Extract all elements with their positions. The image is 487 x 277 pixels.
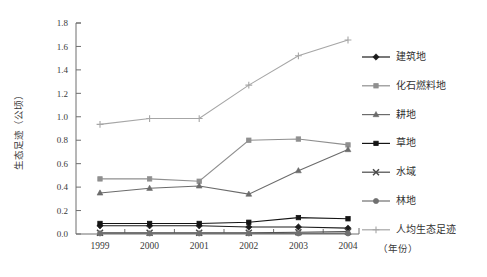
- legend-item-4[interactable]: 草地: [362, 136, 416, 148]
- legend-item-label: 林地: [396, 194, 416, 206]
- y-tick-label: 1.0: [57, 112, 69, 122]
- data-point-circle-marker: [197, 231, 202, 236]
- legend-item-label: 人均生态足迹: [396, 223, 456, 235]
- data-point-plus-marker: [245, 82, 252, 89]
- series-line: [100, 218, 348, 224]
- data-point-square-marker: [296, 137, 300, 141]
- series-line: [100, 40, 348, 124]
- x-axis-title: （年份）: [378, 243, 418, 254]
- y-tick-label: 1.4: [57, 65, 69, 75]
- legend-item-7[interactable]: 人均生态足迹: [362, 223, 456, 235]
- data-point-plus-marker: [373, 226, 380, 233]
- legend-item-2[interactable]: 化石燃料地: [362, 79, 446, 91]
- y-axis-title: 生态足迹（公顷）: [13, 90, 24, 170]
- series-1: [98, 137, 350, 184]
- data-point-square-marker: [98, 177, 102, 181]
- y-tick-label: 0.8: [57, 135, 69, 145]
- series-3: [98, 215, 350, 225]
- data-point-square-marker: [247, 138, 251, 142]
- data-point-square-marker: [147, 177, 151, 181]
- y-axis-ticks: [76, 23, 81, 234]
- series-group: [97, 37, 352, 236]
- series-line: [100, 150, 348, 195]
- x-tick-label: 2001: [190, 241, 209, 251]
- data-point-circle-marker: [97, 231, 102, 236]
- y-axis-tick-labels: 0.00.20.40.60.81.01.21.41.61.8: [57, 18, 69, 239]
- legend-item-5[interactable]: 水域: [362, 165, 416, 177]
- y-tick-label: 0.6: [57, 159, 69, 169]
- data-point-square-marker: [247, 220, 251, 224]
- legend-item-6[interactable]: 林地: [362, 194, 416, 206]
- y-tick-label: 0.0: [57, 229, 69, 239]
- data-point-plus-marker: [295, 52, 302, 59]
- legend-item-3[interactable]: 耕地: [362, 108, 416, 120]
- data-point-circle-marker: [246, 231, 251, 236]
- legend-item-label: 建筑地: [396, 50, 426, 62]
- data-point-square-marker: [374, 141, 378, 145]
- data-point-plus-marker: [146, 115, 153, 122]
- y-tick-label: 0.2: [57, 206, 68, 216]
- y-tick-label: 0.4: [57, 182, 69, 192]
- chart-container: 生态足迹（公顷） 0.00.20.40.60.81.01.21.41.61.8 …: [0, 0, 487, 277]
- x-axis-tick-labels: 199920002001200220032004: [91, 241, 358, 251]
- data-point-square-marker: [346, 217, 350, 221]
- x-tick-label: 2002: [239, 241, 258, 251]
- data-point-square-marker: [98, 221, 102, 225]
- y-tick-label: 1.8: [57, 18, 69, 28]
- legend-item-label: 水域: [396, 165, 416, 177]
- legend-item-label: 草地: [396, 136, 416, 148]
- data-point-square-marker: [197, 221, 201, 225]
- series-line: [100, 226, 348, 228]
- data-point-circle-marker: [345, 231, 350, 236]
- x-tick-label: 1999: [91, 241, 110, 251]
- data-point-plus-marker: [196, 115, 203, 122]
- x-tick-label: 2003: [289, 241, 308, 251]
- legend-item-label: 耕地: [396, 108, 416, 120]
- series-2: [97, 147, 351, 197]
- data-point-diamond-marker: [373, 54, 379, 60]
- data-point-plus-marker: [97, 121, 104, 128]
- legend-item-label: 化石燃料地: [396, 79, 446, 91]
- data-point-circle-marker: [296, 231, 301, 236]
- ecological-footprint-line-chart: 生态足迹（公顷） 0.00.20.40.60.81.01.21.41.61.8 …: [0, 0, 487, 277]
- data-point-square-marker: [147, 221, 151, 225]
- series-6: [97, 37, 352, 128]
- x-tick-label: 2004: [339, 241, 358, 251]
- y-tick-label: 1.6: [57, 42, 69, 52]
- chart-legend: 建筑地化石燃料地耕地草地水域林地人均生态足迹: [362, 50, 456, 235]
- y-tick-label: 1.2: [57, 89, 68, 99]
- data-point-circle-marker: [373, 198, 378, 203]
- legend-item-1[interactable]: 建筑地: [362, 50, 426, 62]
- data-point-circle-marker: [147, 231, 152, 236]
- data-point-square-marker: [374, 84, 378, 88]
- x-tick-label: 2000: [140, 241, 159, 251]
- series-line: [100, 139, 348, 181]
- data-point-plus-marker: [345, 37, 352, 44]
- data-point-square-marker: [296, 215, 300, 219]
